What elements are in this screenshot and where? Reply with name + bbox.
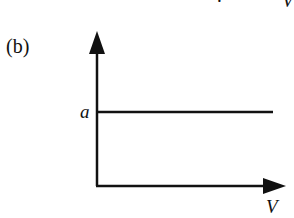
- x-axis-arrow-icon: [263, 178, 286, 194]
- x-axis-label: V: [266, 197, 278, 216]
- y-axis-arrow-icon: [89, 31, 105, 54]
- y-value-label: a: [80, 102, 90, 121]
- graph-axes: [0, 0, 294, 218]
- top-cut-label: V: [282, 0, 294, 10]
- top-cut-dot: .: [217, 0, 222, 5]
- panel-label: (b): [6, 36, 29, 56]
